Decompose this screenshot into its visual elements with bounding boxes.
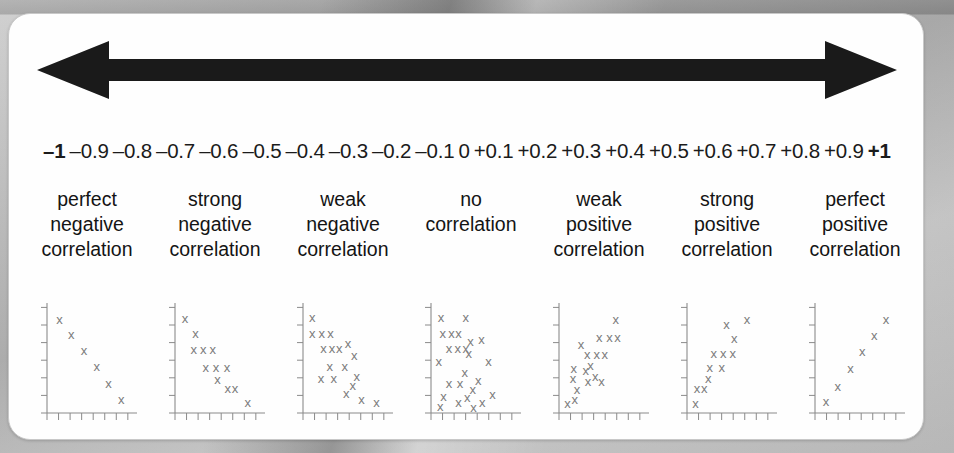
scatterplot-svg: xxxxxxxxxxxx [163, 297, 267, 429]
category-label-4-line2: positive [535, 212, 663, 237]
scatter-marker: x [320, 341, 327, 356]
scale-tick-9: –0.1 [415, 139, 454, 163]
scale-tick-16: +0.6 [693, 139, 733, 163]
scale-tick-8: –0.2 [372, 139, 411, 163]
scatter-marker: x [479, 395, 486, 410]
category-label-6-line2: positive [791, 212, 919, 237]
scatter-marker: x [81, 343, 88, 358]
scatter-marker: x [358, 392, 365, 407]
scatter-marker: x [847, 361, 854, 376]
category-label-5: strong positive correlation [663, 187, 791, 262]
scatter-marker: x [729, 346, 736, 361]
scatter-marker: x [475, 373, 482, 388]
scatter-marker: x [720, 346, 727, 361]
scatter-marker: x [614, 330, 621, 345]
scatter-marker: x [118, 392, 125, 407]
scatterplot-panel-3: xxxxxxxxxxxxxxxxxxxxxxxxx [407, 297, 535, 429]
scale-tick-18: +0.8 [780, 139, 820, 163]
scatter-marker: x [56, 312, 63, 327]
scatterplot-svg: xxxxxxxxxxxx [675, 297, 779, 429]
scatter-marker: x [478, 332, 485, 347]
category-label-2-line2: negative [279, 212, 407, 237]
scale-tick-6: –0.4 [286, 139, 325, 163]
scatter-marker: x [578, 337, 585, 352]
category-label-5-line2: positive [663, 212, 791, 237]
scatterplot-svg: xxxxxxxxxxxxxxxxxx [291, 297, 395, 429]
scatter-marker: x [191, 342, 198, 357]
scatter-marker: x [351, 348, 358, 363]
scatter-marker: x [859, 344, 866, 359]
scatter-marker: x [594, 347, 601, 362]
scatter-marker: x [587, 358, 594, 373]
category-label-0-line3: correlation [23, 237, 151, 262]
scatter-marker: x [462, 310, 469, 325]
scatter-marker: x [823, 394, 830, 409]
scale-tick-3: –0.7 [156, 139, 195, 163]
category-label-0: perfect negative correlation [23, 187, 151, 262]
scatter-marker: x [192, 326, 199, 341]
correlation-scale: –1 –0.9 –0.8 –0.7 –0.6 –0.5 –0.4 –0.3 –0… [43, 139, 891, 163]
scatter-marker: x [225, 381, 232, 396]
scatter-marker: x [438, 310, 445, 325]
category-label-4-line1: weak [535, 187, 663, 212]
scatter-marker: x [343, 386, 350, 401]
scatter-marker: x [601, 347, 608, 362]
double-headed-arrow [37, 39, 897, 101]
scale-tick-14: +0.4 [605, 139, 645, 163]
scatterplot-row: xxxxxx xxxxxxxxxxxx xxxxxxxxxxxxxxxxxx x… [23, 297, 919, 429]
scatter-marker: x [200, 342, 207, 357]
category-label-1-line3: correlation [151, 237, 279, 262]
scatter-marker: x [329, 341, 336, 356]
scatter-marker: x [571, 361, 578, 376]
scatter-marker: x [318, 371, 325, 386]
scatter-marker: x [373, 395, 380, 410]
scatterplot-svg: xxxxxx [803, 297, 907, 429]
scatter-marker: x [68, 327, 75, 342]
scatterplot-svg: xxxxxxxxxxxxxxxxxx [547, 297, 651, 429]
category-label-3: no correlation [407, 187, 535, 262]
scatter-marker: x [470, 382, 477, 397]
scale-tick-17: +0.7 [736, 139, 776, 163]
scale-tick-11: +0.1 [474, 139, 514, 163]
scatterplot-panel-4: xxxxxxxxxxxxxxxxxx [535, 297, 663, 429]
scatterplot-panel-6: xxxxxx [791, 297, 919, 429]
category-label-1-line2: negative [151, 212, 279, 237]
scatter-marker: x [455, 326, 462, 341]
scatter-marker: x [214, 372, 221, 387]
scatter-marker: x [466, 346, 473, 361]
scale-tick-12: +0.2 [518, 139, 558, 163]
category-label-3-line1: no [407, 187, 535, 212]
scatter-marker: x [105, 376, 112, 391]
scatter-marker: x [718, 360, 725, 375]
scale-tick-2: –0.8 [113, 139, 152, 163]
category-label-1-line1: strong [151, 187, 279, 212]
category-label-4: weak positive correlation [535, 187, 663, 262]
scatter-marker: x [309, 326, 316, 341]
scatter-marker: x [457, 376, 464, 391]
scale-tick-13: +0.3 [561, 139, 601, 163]
scale-tick-20: +1 [868, 139, 891, 163]
category-labels: perfect negative correlation strong nega… [23, 187, 919, 262]
category-label-2-line3: correlation [279, 237, 407, 262]
scatter-marker: x [723, 317, 730, 332]
scatterplot-svg: xxxxxx [35, 297, 139, 429]
category-label-6-line1: perfect [791, 187, 919, 212]
category-label-2: weak negative correlation [279, 187, 407, 262]
scale-tick-10: 0 [458, 139, 469, 163]
scatter-marker: x [692, 396, 699, 411]
scale-tick-15: +0.5 [649, 139, 689, 163]
scatter-marker: x [710, 346, 717, 361]
scatter-marker: x [596, 330, 603, 345]
scatter-marker: x [564, 396, 571, 411]
scatter-marker: x [598, 374, 605, 389]
scale-tick-1: –0.9 [70, 139, 109, 163]
scatter-marker: x [731, 331, 738, 346]
category-label-6: perfect positive correlation [791, 187, 919, 262]
scatter-marker: x [244, 395, 251, 410]
scatter-marker: x [319, 326, 326, 341]
scatterplot-panel-2: xxxxxxxxxxxxxxxxxx [279, 297, 407, 429]
category-label-0-line2: negative [23, 212, 151, 237]
scale-tick-4: –0.6 [199, 139, 238, 163]
scatter-marker: x [435, 354, 442, 369]
scatter-marker: x [871, 328, 878, 343]
